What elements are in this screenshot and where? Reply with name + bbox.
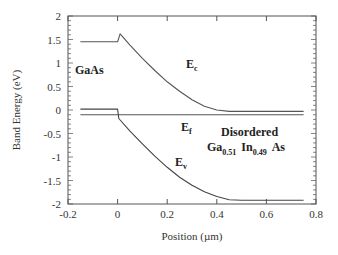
x-axis-title: Position (µm) <box>161 230 222 243</box>
y-tick-label: 1 <box>56 57 62 69</box>
series-ev-line <box>80 109 303 200</box>
gainas-label: Ga0.51In0.49As <box>207 140 285 157</box>
x-tick-label: 0.4 <box>210 208 224 220</box>
axis-ticks <box>68 16 316 204</box>
x-tick-label: -0.2 <box>59 208 76 220</box>
y-tick-label: 0.5 <box>47 81 61 93</box>
y-tick-labels: -2-1.5-1-0.500.511.52 <box>44 10 62 210</box>
y-tick-label: -0.5 <box>44 128 62 140</box>
gaas-label: GaAs <box>75 63 104 77</box>
y-tick-label: -1.5 <box>44 175 62 187</box>
series-ec-line <box>80 34 303 112</box>
disordered-label: Disordered <box>221 125 278 139</box>
y-tick-label: 2 <box>56 10 62 22</box>
y-tick-label: -1 <box>52 151 61 163</box>
ec-label: Ec <box>186 57 198 73</box>
x-tick-labels: -0.200.20.40.60.8 <box>59 208 323 220</box>
band-diagram-chart: -0.200.20.40.60.8 -2-1.5-1-0.500.511.52 … <box>0 0 338 255</box>
ev-label: Ev <box>175 155 187 171</box>
x-tick-label: 0.6 <box>260 208 274 220</box>
y-tick-label: 1.5 <box>47 34 61 46</box>
y-tick-label: 0 <box>56 104 62 116</box>
y-tick-label: -2 <box>52 198 61 210</box>
y-axis-title: Band Energy (eV) <box>10 69 23 150</box>
ef-label: Ef <box>181 120 192 136</box>
x-tick-label: 0.8 <box>309 208 323 220</box>
x-tick-label: 0 <box>115 208 121 220</box>
x-tick-label: 0.2 <box>160 208 174 220</box>
plot-frame <box>68 16 316 204</box>
